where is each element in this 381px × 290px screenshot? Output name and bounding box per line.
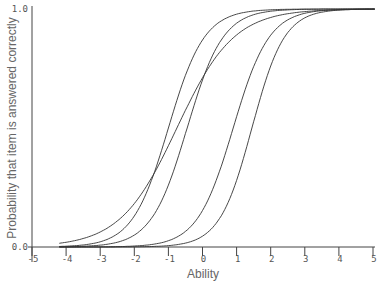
icc-curve-2	[59, 9, 374, 243]
x-tick-label: 2	[269, 254, 274, 264]
axes	[28, 6, 375, 262]
x-tick-label: 1	[235, 254, 240, 264]
y-tick-label: 0.0	[12, 242, 28, 252]
y-tick-label: 1.0	[12, 4, 28, 14]
x-ticks: -5-4-3-2-1012345	[28, 247, 377, 264]
x-tick-label: -3	[96, 254, 107, 264]
x-tick-label: 3	[303, 254, 308, 264]
x-tick-label: -4	[62, 254, 73, 264]
icc-curve-1	[59, 9, 374, 247]
x-axis-title: Ability	[187, 267, 219, 281]
curves	[59, 9, 374, 247]
x-tick-label: 0	[201, 254, 206, 264]
y-axis-title: Probability that item is answered correc…	[5, 17, 19, 238]
x-tick-label: -1	[164, 254, 175, 264]
x-tick-label: 4	[337, 254, 342, 264]
icc-curve-5	[59, 9, 374, 247]
icc-chart: -5-4-3-2-1012345 0.01.0 Ability Probabil…	[0, 0, 381, 290]
x-tick-label: -5	[28, 254, 39, 264]
icc-curve-3	[59, 9, 374, 247]
icc-curve-4	[59, 9, 374, 247]
x-tick-label: -2	[130, 254, 141, 264]
x-tick-label: 5	[371, 254, 376, 264]
